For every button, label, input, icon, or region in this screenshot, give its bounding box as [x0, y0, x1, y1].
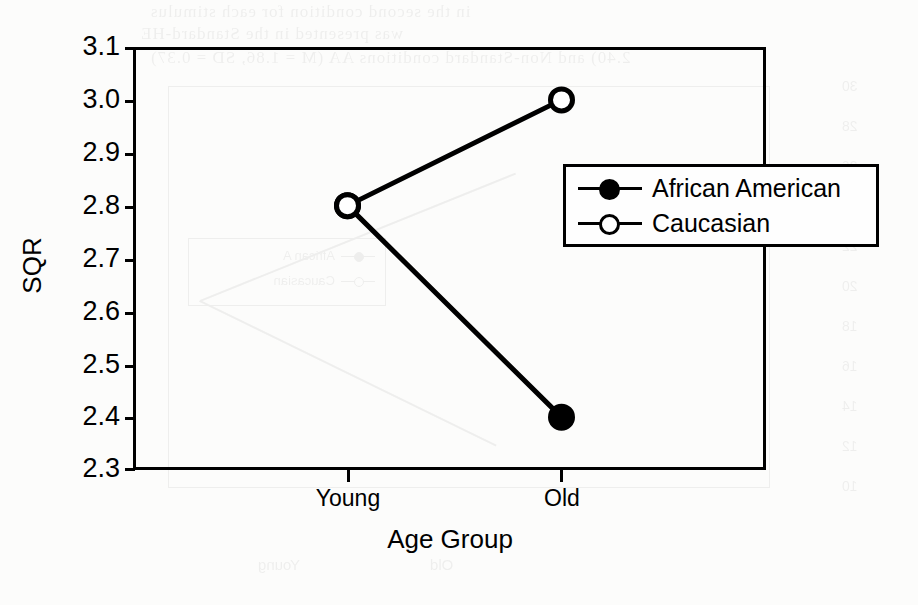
- filled-circle-icon: [578, 176, 642, 200]
- series-line-1: [348, 206, 562, 418]
- chart-container: 3.1 3.0 2.9 2.8 2.7 2.6 2.5 2.4 2.3 Youn…: [0, 0, 918, 605]
- open-circle-marker: [337, 195, 359, 217]
- open-circle-icon: [578, 211, 642, 235]
- legend-label: Caucasian: [652, 209, 770, 238]
- series-line-2: [348, 100, 562, 206]
- legend-entry-african-american: African American: [578, 171, 841, 205]
- legend-entry-caucasian: Caucasian: [578, 206, 770, 240]
- data-series-layer: [0, 0, 918, 605]
- open-circle-marker: [551, 89, 573, 111]
- chart-legend: African American Caucasian: [563, 164, 879, 247]
- filled-circle-marker: [551, 406, 573, 428]
- series-group: [337, 89, 573, 428]
- legend-label: African American: [652, 174, 841, 203]
